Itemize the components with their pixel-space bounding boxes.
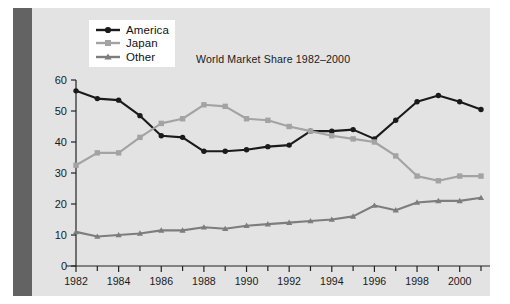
legend-item-america: America — [95, 23, 171, 37]
data-point-marker — [457, 173, 462, 178]
series-japan — [73, 102, 483, 183]
data-point-marker — [137, 135, 142, 140]
data-point-marker — [95, 96, 100, 101]
legend-label-japan: Japan — [126, 37, 158, 49]
data-point-marker — [73, 163, 78, 168]
data-point-marker — [478, 173, 483, 178]
x-tick-label: 1996 — [352, 275, 396, 287]
legend-label-other: Other — [126, 51, 155, 63]
legend-item-other: Other — [95, 50, 171, 64]
y-tick-label: 10 — [43, 229, 67, 241]
x-tick-label: 1992 — [267, 275, 311, 287]
data-point-marker — [286, 142, 291, 147]
data-point-marker — [414, 173, 419, 178]
legend-label-america: America — [126, 24, 169, 36]
data-point-marker — [350, 136, 355, 141]
data-point-marker — [244, 147, 249, 152]
data-point-marker — [265, 118, 270, 123]
data-point-marker — [73, 88, 78, 93]
legend-item-japan: Japan — [95, 37, 171, 51]
data-point-marker — [159, 121, 164, 126]
data-point-marker — [95, 150, 100, 155]
data-point-marker — [308, 128, 313, 133]
series-other — [73, 195, 484, 239]
data-point-marker — [286, 124, 291, 129]
data-point-marker — [180, 116, 185, 121]
data-point-marker — [436, 178, 441, 183]
data-point-marker — [393, 153, 398, 158]
data-point-marker — [265, 144, 270, 149]
chart-plot-area — [0, 0, 510, 304]
series-group — [73, 88, 484, 239]
y-tick-label: 50 — [43, 105, 67, 117]
data-point-marker — [223, 149, 228, 154]
data-point-marker — [350, 127, 355, 132]
data-point-marker — [223, 104, 228, 109]
data-point-marker — [329, 128, 334, 133]
x-tick-label: 2000 — [438, 275, 482, 287]
x-tick-label: 1994 — [310, 275, 354, 287]
data-point-marker — [137, 113, 142, 118]
data-point-marker — [329, 133, 334, 138]
data-point-marker — [201, 149, 206, 154]
x-tick-label: 1988 — [182, 275, 226, 287]
data-point-marker — [414, 99, 419, 104]
legend-marker-circle-icon — [95, 24, 121, 36]
data-point-marker — [478, 107, 483, 112]
data-point-marker — [244, 116, 249, 121]
y-tick-label: 40 — [43, 136, 67, 148]
data-point-marker — [201, 102, 206, 107]
x-tick-label: 1982 — [54, 275, 98, 287]
x-tick-label: 1990 — [225, 275, 269, 287]
data-point-marker — [436, 93, 441, 98]
data-point-marker — [180, 135, 185, 140]
x-tick-label: 1998 — [395, 275, 439, 287]
series-america — [73, 88, 483, 154]
data-point-marker — [116, 97, 121, 102]
y-tick-label: 60 — [43, 74, 67, 86]
x-tick-label: 1984 — [97, 275, 141, 287]
chart-title: World Market Share 1982–2000 — [196, 53, 350, 65]
data-point-marker — [116, 150, 121, 155]
y-tick-label: 30 — [43, 167, 67, 179]
data-point-marker — [372, 139, 377, 144]
chart-figure: 0102030405060 19821984198619881990199219… — [0, 0, 510, 304]
legend-marker-triangle-icon — [95, 51, 121, 63]
y-tick-label: 20 — [43, 198, 67, 210]
data-point-marker — [457, 99, 462, 104]
y-tick-label: 0 — [43, 260, 67, 272]
legend-marker-square-icon — [95, 37, 121, 49]
x-tick-label: 1986 — [139, 275, 183, 287]
data-point-marker — [159, 133, 164, 138]
data-point-marker — [393, 118, 398, 123]
chart-legend: America Japan Other — [89, 20, 175, 67]
